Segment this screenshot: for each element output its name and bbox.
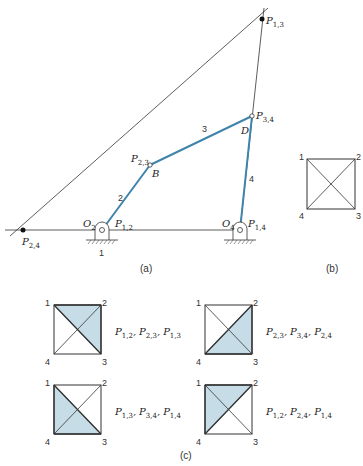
label-p24: P2,4 bbox=[21, 236, 40, 250]
corner-label: 3 bbox=[253, 357, 258, 367]
label-p14: P1,4 bbox=[247, 218, 266, 232]
corner-label: 2 bbox=[102, 378, 107, 388]
corner-label: 3 bbox=[102, 357, 107, 367]
caption-b: (b) bbox=[326, 263, 338, 274]
cycle-diagram: 1234P1,3,P3,4,P1,4 bbox=[45, 378, 182, 447]
panel-a: P1,3 P3,4 D 3 P2,3 B 2 4 O2 P1,2 O4 P1,4… bbox=[5, 8, 284, 274]
line-p24-p13 bbox=[10, 8, 268, 236]
panel-b: 1 2 3 4 (b) bbox=[299, 152, 361, 274]
corner-3: 3 bbox=[356, 211, 361, 221]
point-p24 bbox=[21, 228, 26, 233]
corner-label: 2 bbox=[102, 298, 107, 308]
label-p34: P3,4 bbox=[255, 110, 274, 124]
center-list: P1,3,P3,4,P1,4 bbox=[114, 406, 182, 420]
corner-label: 4 bbox=[45, 437, 50, 447]
center-list: P2,3,P3,4,P2,4 bbox=[265, 326, 333, 340]
cycle-diagram: 1234P1,2,P2,4,P1,4 bbox=[196, 378, 333, 447]
label-d: D bbox=[240, 125, 249, 136]
caption-c: (c) bbox=[180, 450, 192, 461]
center-list: P1,2,P2,4,P1,4 bbox=[265, 406, 333, 420]
corner-1: 1 bbox=[299, 152, 304, 162]
link-3-coupler bbox=[150, 116, 252, 165]
corner-label: 4 bbox=[45, 357, 50, 367]
label-link-2: 2 bbox=[118, 193, 123, 203]
instant-centers-figure: P1,3 P3,4 D 3 P2,3 B 2 4 O2 P1,2 O4 P1,4… bbox=[0, 0, 363, 466]
corner-label: 1 bbox=[45, 298, 50, 308]
joint-d bbox=[250, 114, 254, 118]
corner-label: 1 bbox=[45, 378, 50, 388]
cycle-diagram: 1234P2,3,P3,4,P2,4 bbox=[196, 298, 333, 367]
label-b: B bbox=[151, 168, 159, 179]
cycle-diagram: 1234P1,2,P2,3,P1,3 bbox=[45, 298, 181, 367]
point-p13 bbox=[260, 17, 265, 22]
corner-label: 4 bbox=[196, 437, 201, 447]
corner-label: 4 bbox=[196, 357, 201, 367]
corner-label: 2 bbox=[253, 378, 258, 388]
label-p23: P2,3 bbox=[130, 153, 149, 167]
corner-label: 2 bbox=[253, 298, 258, 308]
corner-2: 2 bbox=[356, 152, 361, 162]
label-link-1: 1 bbox=[99, 248, 104, 258]
corner-label: 3 bbox=[253, 437, 258, 447]
label-p13: P1,3 bbox=[265, 15, 284, 29]
panel-c: 1234P1,2,P2,3,P1,31234P2,3,P3,4,P2,41234… bbox=[45, 298, 333, 447]
corner-label: 3 bbox=[102, 437, 107, 447]
caption-a: (a) bbox=[140, 263, 152, 274]
link-2-crank bbox=[102, 165, 150, 230]
label-link-4: 4 bbox=[249, 174, 254, 184]
corner-4: 4 bbox=[299, 211, 304, 221]
corner-label: 1 bbox=[196, 298, 201, 308]
label-link-3: 3 bbox=[202, 124, 207, 134]
center-list: P1,2,P2,3,P1,3 bbox=[114, 326, 181, 340]
corner-label: 1 bbox=[196, 378, 201, 388]
